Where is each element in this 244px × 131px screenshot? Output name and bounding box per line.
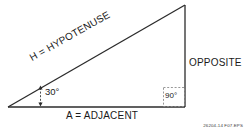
figure-caption-id: 26204-14 F07.EPS	[203, 123, 243, 128]
angle-30-label: 30°	[45, 86, 59, 97]
adjacent-label: A = ADJACENT	[66, 110, 138, 121]
triangle-figure: H = HYPOTENUSE A = ADJACENT OPPOSITE = O…	[0, 0, 244, 131]
opposite-label: OPPOSITE = O	[189, 57, 244, 68]
angle-90-label: 90°	[165, 91, 177, 100]
angle-30-arrowhead-bottom	[38, 103, 42, 107]
